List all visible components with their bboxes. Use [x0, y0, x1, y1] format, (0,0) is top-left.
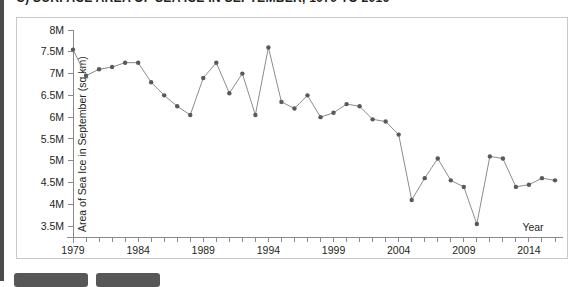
data-point	[436, 156, 440, 160]
data-point	[514, 185, 518, 189]
data-point	[357, 104, 361, 108]
data-point	[344, 102, 348, 106]
page-title: C) SURFACE AREA OF SEA ICE IN SEPTEMBER,…	[16, 0, 576, 7]
data-point	[110, 65, 114, 69]
y-tick-label: 3.5M	[41, 220, 64, 232]
data-point	[540, 176, 544, 180]
x-tick-label: 1979	[61, 244, 85, 256]
data-point	[188, 113, 192, 117]
data-point	[123, 60, 127, 64]
toolbar-button-2[interactable]	[96, 273, 160, 287]
data-point	[318, 115, 322, 119]
data-point	[97, 67, 101, 71]
data-point	[410, 198, 414, 202]
sea-ice-series-line	[73, 47, 555, 224]
data-point	[553, 178, 557, 182]
data-point	[331, 111, 335, 115]
y-axis-tick-labels: 8M7.5M7M6.5M6M5.5M5M4.5M4M3.5M	[41, 24, 64, 232]
x-axis-tick-labels: 19791984198919941999200420092014	[61, 244, 540, 256]
article-left-rule	[0, 0, 4, 281]
data-point	[175, 104, 179, 108]
data-point	[71, 47, 75, 51]
x-tick-label: 2014	[517, 244, 541, 256]
y-tick-label: 6.5M	[41, 89, 64, 101]
data-point	[396, 132, 400, 136]
x-axis-title: Year	[522, 221, 544, 233]
toolbar-button-1[interactable]	[14, 273, 88, 287]
data-point	[136, 60, 140, 64]
data-point	[84, 74, 88, 78]
data-point	[292, 106, 296, 110]
x-axis-ticks	[73, 237, 568, 242]
data-point	[527, 183, 531, 187]
x-tick-label: 1999	[322, 244, 346, 256]
chart-card: 8M7.5M7M6.5M6M5.5M5M4.5M4M3.5M 197919841…	[16, 17, 568, 259]
y-tick-label: 5M	[49, 154, 64, 166]
data-point	[162, 93, 166, 97]
sea-ice-line-chart: 8M7.5M7M6.5M6M5.5M5M4.5M4M3.5M 197919841…	[17, 18, 568, 259]
data-point	[501, 156, 505, 160]
y-tick-label: 5.5M	[41, 133, 64, 145]
y-axis-title: Area of Sea Ice in September (sq km)	[76, 56, 88, 232]
data-point	[279, 100, 283, 104]
data-point	[449, 178, 453, 182]
chart-plot-area: 8M7.5M7M6.5M6M5.5M5M4.5M4M3.5M 197919841…	[17, 18, 568, 259]
x-tick-label: 1989	[192, 244, 216, 256]
data-point	[266, 45, 270, 49]
data-point	[227, 91, 231, 95]
y-tick-label: 8M	[49, 24, 64, 36]
x-tick-label: 1994	[257, 244, 281, 256]
data-point	[240, 71, 244, 75]
data-point	[423, 176, 427, 180]
y-tick-label: 6M	[49, 111, 64, 123]
data-point	[149, 80, 153, 84]
data-point	[214, 60, 218, 64]
x-tick-label: 2009	[452, 244, 476, 256]
data-point	[253, 113, 257, 117]
data-point	[462, 185, 466, 189]
data-point	[305, 93, 309, 97]
data-point	[475, 222, 479, 226]
x-tick-label: 1984	[126, 244, 150, 256]
y-tick-label: 7M	[49, 67, 64, 79]
y-tick-label: 4.5M	[41, 176, 64, 188]
y-tick-label: 4M	[49, 198, 64, 210]
sea-ice-data-points	[71, 45, 557, 226]
y-tick-label: 7.5M	[41, 45, 64, 57]
data-point	[488, 154, 492, 158]
data-point	[383, 119, 387, 123]
data-point	[370, 117, 374, 121]
y-axis-ticks	[68, 30, 73, 226]
data-point	[201, 76, 205, 80]
x-tick-label: 2004	[387, 244, 411, 256]
